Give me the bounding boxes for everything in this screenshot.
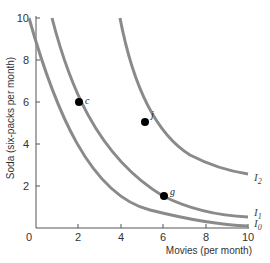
y-tick-label: 6 [23,96,29,108]
y-axis-title: Soda (six-packs per month) [5,57,16,179]
curve-label-i2: I2 [253,171,262,186]
x-tick-label: 6 [160,231,166,243]
y-tick-label: 2 [23,180,29,192]
origin-label: 0 [26,231,32,243]
point-c-label: c [85,95,90,106]
x-tick-label: 2 [75,231,81,243]
indifference-curve-chart: 2 4 6 8 10 0 2 4 6 8 10 Movies (per mont… [0,0,270,263]
indifference-curve-i1 [52,18,248,217]
y-tick-label: 10 [17,12,29,24]
x-axis-title: Movies (per month) [166,245,252,256]
point-c [75,98,83,106]
y-tick-label: 8 [23,54,29,66]
x-tick-label: 8 [203,231,209,243]
point-j [141,118,149,126]
y-tick-label: 4 [23,138,29,150]
point-g [160,192,168,200]
x-tick-label: 4 [118,231,124,243]
point-g-label: g [170,186,175,197]
x-tick-label: 10 [242,231,254,243]
indifference-curve-i2 [120,18,248,174]
